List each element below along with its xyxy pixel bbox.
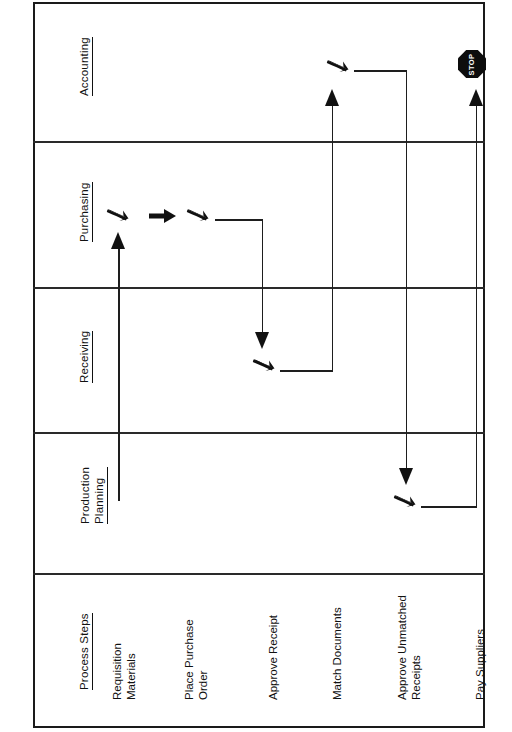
lane-title-receiving: Receiving bbox=[78, 331, 93, 383]
node-place-purchase-order[interactable] bbox=[186, 205, 212, 227]
connector-receipt-to-match-vertical bbox=[332, 105, 334, 371]
step-label-line: Match Documents bbox=[330, 607, 344, 700]
node-approve-receipt[interactable] bbox=[252, 355, 278, 377]
step-label-line: Receipts bbox=[409, 595, 423, 700]
arrowhead-up-icon bbox=[325, 89, 339, 106]
step-label-line: Approve Unmatched bbox=[395, 595, 409, 700]
lane-divider-production-steps bbox=[33, 573, 485, 575]
lane-title-receiving-text: Receiving bbox=[78, 331, 93, 383]
step-label-pay-suppliers: Pay Suppliers bbox=[473, 629, 487, 700]
node-match-documents[interactable] bbox=[326, 56, 352, 78]
step-label-requisition-materials: Requisition Materials bbox=[110, 643, 138, 700]
step-label-match-documents: Match Documents bbox=[330, 607, 344, 700]
right-arrow-icon bbox=[149, 208, 177, 224]
node-requisition-materials[interactable] bbox=[106, 205, 132, 227]
frame-bottom-edge bbox=[33, 726, 485, 728]
step-label-line: Place Purchase bbox=[182, 619, 196, 700]
stop-label: STOP bbox=[467, 53, 476, 75]
arrowhead-up-icon bbox=[111, 232, 125, 249]
connector-po-horizontal bbox=[215, 219, 263, 221]
step-label-line: Pay Suppliers bbox=[473, 629, 487, 700]
arrowhead-down-icon bbox=[255, 332, 269, 349]
step-label-place-purchase-order: Place Purchase Order bbox=[182, 619, 210, 700]
step-label-line: Materials bbox=[124, 643, 138, 700]
connector-po-to-receipt-vertical bbox=[262, 219, 264, 333]
lane-divider-receiving-production bbox=[33, 432, 485, 434]
flowchart-canvas: Accounting Purchasing Receiving Producti… bbox=[0, 0, 512, 732]
connector-unmatched-to-pay-vertical bbox=[476, 105, 478, 507]
lane-title-production-line1: Production bbox=[78, 467, 92, 524]
connector-start-to-requisition bbox=[118, 248, 120, 501]
lane-title-purchasing: Purchasing bbox=[78, 182, 93, 242]
lane-title-accounting-text: Accounting bbox=[78, 37, 93, 96]
lane-title-production-planning: Production Planning bbox=[78, 467, 108, 524]
connector-match-horizontal bbox=[354, 70, 407, 72]
step-label-approve-unmatched-receipts: Approve Unmatched Receipts bbox=[395, 595, 423, 700]
lane-title-accounting: Accounting bbox=[78, 37, 93, 96]
step-label-line: Order bbox=[196, 619, 210, 700]
frame-top-edge bbox=[33, 2, 485, 4]
lane-title-production-line2: Planning bbox=[92, 467, 108, 524]
lane-divider-purchasing-receiving bbox=[33, 287, 485, 289]
frame-left-edge bbox=[33, 2, 35, 728]
step-label-line: Approve Receipt bbox=[266, 615, 280, 700]
step-label-approve-receipt: Approve Receipt bbox=[266, 615, 280, 700]
frame-right-edge bbox=[483, 2, 485, 728]
step-label-line: Requisition bbox=[110, 643, 124, 700]
arrowhead-down-icon bbox=[399, 468, 413, 485]
lane-title-process-steps-text: Process Steps bbox=[78, 613, 93, 690]
connector-unmatched-horizontal bbox=[421, 506, 477, 508]
connector-receipt-horizontal bbox=[280, 370, 333, 372]
lane-divider-accounting-purchasing bbox=[33, 141, 485, 143]
lane-title-purchasing-text: Purchasing bbox=[78, 182, 93, 242]
arrowhead-up-icon bbox=[469, 89, 483, 106]
lane-title-process-steps: Process Steps bbox=[78, 613, 93, 690]
node-approve-unmatched-receipts[interactable] bbox=[393, 491, 419, 513]
connector-match-to-unmatched-vertical bbox=[406, 70, 408, 469]
stop-terminator[interactable]: STOP bbox=[458, 50, 486, 78]
